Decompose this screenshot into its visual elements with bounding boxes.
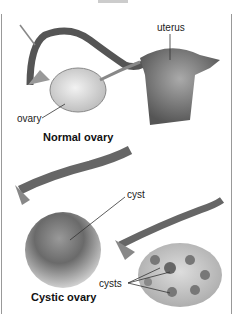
normal-ovary-illustration (20, 25, 220, 125)
label-uterus: uterus (157, 22, 185, 33)
illustration (0, 0, 237, 317)
label-ovary: ovary (17, 113, 41, 124)
caption-cystic-ovary: Cystic ovary (31, 291, 96, 303)
label-cyst: cyst (127, 189, 145, 200)
label-cysts: cysts (99, 278, 122, 289)
caption-normal-ovary: Normal ovary (43, 131, 113, 143)
cystic-ovary-large-cyst (15, 150, 130, 288)
polycystic-ovary (115, 200, 222, 307)
